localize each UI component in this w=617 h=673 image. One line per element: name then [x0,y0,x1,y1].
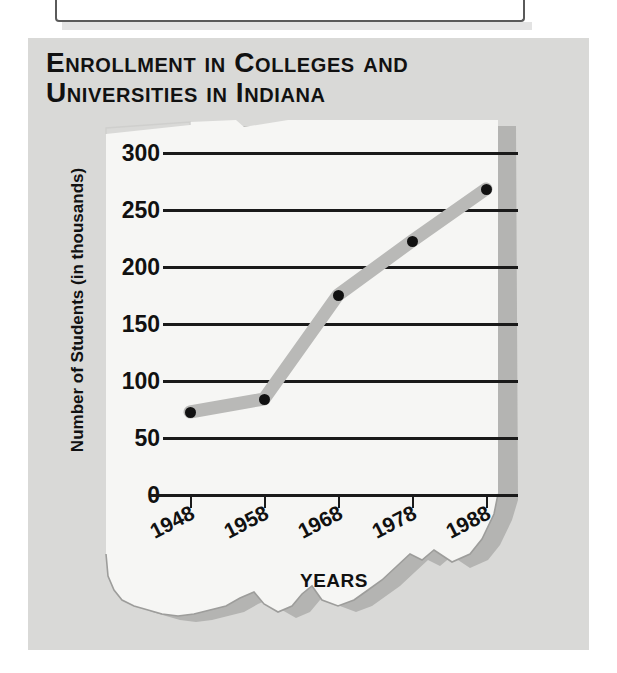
gridline [168,152,518,155]
data-point [481,184,492,195]
y-tick-label: 200 [98,256,160,279]
y-tick-label: 150 [98,313,160,336]
gridline [168,209,518,212]
x-axis-title: YEARS [300,570,368,592]
y-tick-label: 250 [98,199,160,222]
data-point [333,290,344,301]
gridline [168,437,518,440]
line-chart: Number of Students (in thousands) 300 25… [0,0,617,673]
data-point [407,236,418,247]
x-tick-label: 1978 [368,501,421,544]
x-axis-line [150,494,518,497]
data-point [259,394,270,405]
data-point [185,407,196,418]
y-axis-tick-labels: 300 250 200 150 100 50 0 [98,0,160,673]
y-tick-label: 100 [98,370,160,393]
x-tick-label: 1988 [442,501,495,544]
y-tick-label: 300 [98,142,160,165]
gridline [168,380,518,383]
x-tick-label: 1968 [294,501,347,544]
gridline [168,323,518,326]
y-tick-label: 50 [98,427,160,450]
y-axis-title: Number of Students (in thousands) [68,160,88,460]
gridline [168,266,518,269]
x-tick-label: 1958 [220,501,273,544]
